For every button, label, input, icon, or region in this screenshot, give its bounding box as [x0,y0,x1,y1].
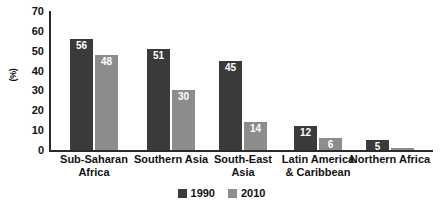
bar-2010-4 [391,148,414,150]
legend-swatch-icon [228,189,237,198]
y-axis-title: (%) [8,64,18,86]
bar-value-label: 48 [95,56,118,67]
y-axis-tick-labels: 706050403020100 [22,0,46,213]
bar-value-label: 30 [172,91,195,102]
bar-value-label: 6 [319,139,342,150]
legend-swatch-icon [178,189,187,198]
bar-2010-2: 14 [244,122,267,150]
category-label-line: Northern Africa [340,153,440,166]
bar-value-label: 51 [147,50,170,61]
bar-1990-1: 51 [147,49,170,150]
chart-legend: 19902010 [0,188,443,199]
bar-group: 5 [358,11,422,150]
bar-1990-3: 12 [294,126,317,150]
category-label-line: & Caribbean [268,166,368,179]
bar-2010-0: 48 [95,55,118,150]
y-tick-10: 10 [32,125,44,135]
bar-2010-1: 30 [172,90,195,150]
bar-value-label: 12 [294,127,317,138]
chart-figure: (%) 706050403020100 5648513045141265 Sub… [0,0,443,213]
legend-label: 2010 [241,188,265,199]
bar-group: 4514 [211,11,275,150]
y-tick-20: 20 [32,105,44,115]
y-tick-40: 40 [32,66,44,76]
bar-value-label: 45 [219,62,242,73]
category-label-4: Northern Africa [340,153,440,166]
legend-item-2010[interactable]: 2010 [228,188,265,199]
bar-group: 5130 [139,11,203,150]
y-tick-60: 60 [32,26,44,36]
legend-item-1990[interactable]: 1990 [178,188,215,199]
y-tick-30: 30 [32,85,44,95]
plot-area: 5648513045141265 [50,11,433,150]
bar-1990-4: 5 [366,140,389,150]
y-tick-70: 70 [32,6,44,16]
category-label-line: Africa [44,166,144,179]
bar-1990-0: 56 [70,39,93,150]
y-tick-50: 50 [32,46,44,56]
bar-value-label: 14 [244,123,267,134]
bar-group: 126 [286,11,350,150]
bar-1990-2: 45 [219,61,242,150]
bar-value-label: 5 [366,141,389,152]
bar-value-label: 56 [70,40,93,51]
legend-label: 1990 [191,188,215,199]
bar-2010-3: 6 [319,138,342,150]
bar-group: 5648 [62,11,126,150]
